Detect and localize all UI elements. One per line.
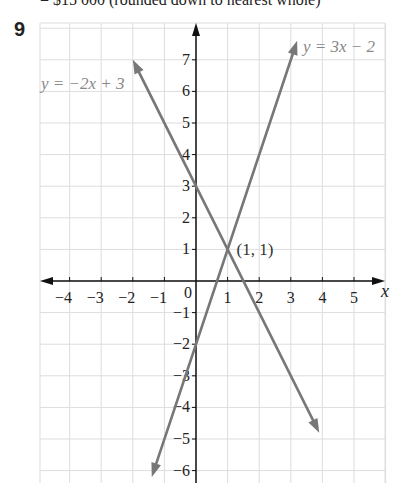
y-tick-label: 1 xyxy=(182,240,190,257)
y-tick-label: −1 xyxy=(173,304,190,321)
y-tick-label: −2 xyxy=(173,335,190,352)
arrowhead-icon xyxy=(133,60,144,75)
x-axis-label: x xyxy=(380,281,389,301)
arrowhead-icon xyxy=(309,418,320,433)
x-tick-label: −3 xyxy=(87,289,104,306)
x-tick-label: 5 xyxy=(350,289,358,306)
x-tick-label: −4 xyxy=(55,289,72,306)
y-tick-label: 7 xyxy=(182,51,190,68)
x-tick-label: 2 xyxy=(255,289,263,306)
y-tick-label: 2 xyxy=(182,209,190,226)
label-line-2: y = 3x − 2 xyxy=(301,37,376,56)
line-chart: −4−3−2−112345−6−5−4−3−2−112345670xy = −2… xyxy=(0,0,405,483)
label-line-1: y = −2x + 3 xyxy=(39,74,125,93)
origin-label: 0 xyxy=(184,284,192,301)
x-tick-label: 3 xyxy=(287,289,295,306)
arrowhead-icon xyxy=(288,41,297,56)
x-tick-label: −2 xyxy=(118,289,135,306)
y-tick-label: 6 xyxy=(182,82,190,99)
x-tick-label: 1 xyxy=(224,289,232,306)
x-axis-left-arrow-icon xyxy=(40,277,53,285)
arrowhead-icon xyxy=(151,462,160,477)
line-y-3x-minus-2 xyxy=(151,41,297,477)
x-tick-label: −1 xyxy=(150,289,167,306)
y-tick-label: 5 xyxy=(182,114,190,131)
y-tick-label: −6 xyxy=(173,462,190,479)
x-tick-label: 4 xyxy=(318,289,326,306)
y-tick-label: 3 xyxy=(182,177,190,194)
y-axis-up-arrow-icon xyxy=(192,23,200,36)
y-tick-label: −5 xyxy=(173,430,190,447)
intersection-label: (1, 1) xyxy=(237,240,274,259)
